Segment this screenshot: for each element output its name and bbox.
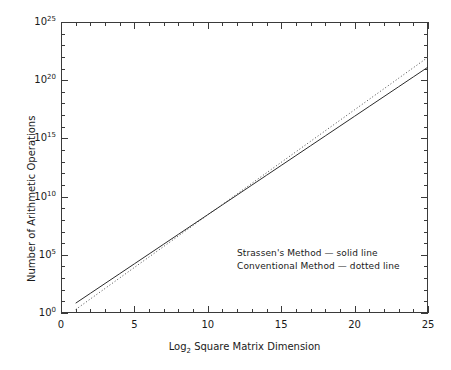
y-tick-label: 1015 xyxy=(34,133,56,143)
y-tick-right xyxy=(421,80,428,81)
x-tick-top xyxy=(61,22,62,29)
y-tick-left xyxy=(61,197,68,198)
x-tick-bottom xyxy=(208,306,209,313)
y-tick-left xyxy=(61,34,65,35)
y-tick-label: 1025 xyxy=(34,17,56,27)
y-tick-right xyxy=(424,92,428,93)
y-tick-right xyxy=(424,173,428,174)
x-tick-top xyxy=(311,22,312,26)
y-tick-right xyxy=(424,220,428,221)
y-tick-right xyxy=(424,243,428,244)
y-tick-right xyxy=(421,255,428,256)
x-tick-top xyxy=(369,22,370,26)
y-tick-right xyxy=(421,313,428,314)
y-tick-right xyxy=(424,127,428,128)
y-tick-right xyxy=(421,197,428,198)
x-tick-bottom xyxy=(413,309,414,313)
legend-entry-strassen: Strassen's Method — solid line xyxy=(237,247,400,260)
x-tick-top xyxy=(413,22,414,26)
x-tick-label: 20 xyxy=(348,320,361,330)
y-tick-right xyxy=(424,69,428,70)
x-tick-bottom xyxy=(149,309,150,313)
x-tick-bottom xyxy=(178,309,179,313)
x-axis-title: Log2 Square Matrix Dimension xyxy=(61,341,428,352)
y-tick-label: 100 xyxy=(39,308,56,318)
y-tick-left xyxy=(61,208,65,209)
x-tick-label: 15 xyxy=(275,320,288,330)
x-tick-bottom xyxy=(252,309,253,313)
y-tick-left xyxy=(61,313,68,314)
y-tick-left xyxy=(61,290,65,291)
x-tick-bottom xyxy=(369,309,370,313)
chart-figure: 0510152025 1001051010101510201025 Log2 S… xyxy=(0,0,451,370)
legend-entry-conventional: Conventional Method — dotted line xyxy=(237,260,400,273)
x-tick-bottom xyxy=(399,309,400,313)
y-tick-left xyxy=(61,57,65,58)
x-tick-top xyxy=(134,22,135,29)
y-tick-left xyxy=(61,80,68,81)
x-tick-label: 10 xyxy=(201,320,214,330)
x-tick-top xyxy=(90,22,91,26)
y-tick-left xyxy=(61,185,65,186)
y-tick-label: 105 xyxy=(39,250,56,260)
x-tick-top xyxy=(76,22,77,26)
x-tick-top xyxy=(149,22,150,26)
x-tick-bottom xyxy=(120,309,121,313)
x-tick-bottom xyxy=(311,309,312,313)
y-tick-right xyxy=(424,150,428,151)
x-tick-top xyxy=(120,22,121,26)
y-tick-right xyxy=(424,208,428,209)
x-tick-top xyxy=(178,22,179,26)
x-tick-bottom xyxy=(61,306,62,313)
y-tick-left xyxy=(61,150,65,151)
x-tick-label: 25 xyxy=(422,320,435,330)
legend: Strassen's Method — solid line Conventio… xyxy=(237,247,400,273)
y-tick-right xyxy=(424,57,428,58)
y-tick-right xyxy=(424,290,428,291)
x-tick-top xyxy=(340,22,341,26)
x-tick-label: 5 xyxy=(131,320,137,330)
y-tick-left xyxy=(61,278,65,279)
x-tick-top xyxy=(399,22,400,26)
y-tick-right xyxy=(424,115,428,116)
y-tick-left xyxy=(61,220,65,221)
y-tick-right xyxy=(421,138,428,139)
y-tick-left xyxy=(61,243,65,244)
y-tick-right xyxy=(424,185,428,186)
y-tick-right xyxy=(424,162,428,163)
x-tick-top xyxy=(105,22,106,26)
x-tick-bottom xyxy=(281,306,282,313)
x-tick-top xyxy=(267,22,268,26)
x-tick-top xyxy=(325,22,326,26)
y-tick-left xyxy=(61,255,68,256)
y-tick-left xyxy=(61,173,65,174)
y-tick-left xyxy=(61,115,65,116)
y-tick-left xyxy=(61,127,65,128)
x-tick-bottom xyxy=(325,309,326,313)
y-tick-left xyxy=(61,103,65,104)
x-tick-top xyxy=(208,22,209,29)
x-tick-top xyxy=(355,22,356,29)
y-tick-left xyxy=(61,266,65,267)
y-tick-right xyxy=(424,103,428,104)
x-tick-top xyxy=(222,22,223,26)
x-tick-bottom xyxy=(296,309,297,313)
y-tick-left xyxy=(61,69,65,70)
x-tick-top xyxy=(296,22,297,26)
x-tick-top xyxy=(193,22,194,26)
x-tick-top xyxy=(252,22,253,26)
y-tick-right xyxy=(424,34,428,35)
y-tick-right xyxy=(424,266,428,267)
y-tick-right xyxy=(424,45,428,46)
y-tick-right xyxy=(424,232,428,233)
x-tick-top xyxy=(428,22,429,29)
x-tick-bottom xyxy=(355,306,356,313)
x-axis-title-base: Log xyxy=(169,341,187,352)
x-tick-bottom xyxy=(237,309,238,313)
y-axis-title: Number of Arithmetic Operations xyxy=(26,116,37,282)
x-tick-bottom xyxy=(105,309,106,313)
y-tick-label: 1020 xyxy=(34,75,56,85)
x-tick-bottom xyxy=(428,306,429,313)
x-tick-bottom xyxy=(164,309,165,313)
x-tick-top xyxy=(237,22,238,26)
